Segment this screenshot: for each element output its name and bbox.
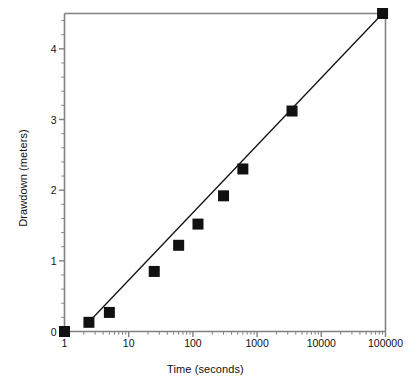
data-point-marker (104, 307, 115, 318)
x-axis-title: Time (seconds) (0, 363, 411, 375)
y-axis-title: Drawdown (meters) (17, 108, 29, 248)
x-tick-label: 1000 (245, 337, 268, 349)
data-point-marker (218, 190, 229, 201)
data-point-marker (173, 240, 184, 251)
y-tick-label: 0 (39, 326, 57, 338)
x-axis-major-ticks (65, 332, 386, 338)
x-tick-label: 10 (123, 337, 135, 349)
data-point-marker (59, 326, 70, 337)
x-tick-label: 100000 (368, 337, 403, 349)
data-point-marker (192, 219, 203, 230)
x-tick-label: 1 (62, 337, 68, 349)
drawdown-vs-time-chart: 110100100010000100000 01234 Time (second… (0, 0, 411, 387)
data-point-marker (149, 266, 160, 277)
data-point-markers (59, 8, 388, 337)
x-tick-label: 10000 (307, 337, 336, 349)
y-tick-label: 2 (39, 184, 57, 196)
data-point-marker (237, 163, 248, 174)
fitted-trend-line (86, 14, 382, 325)
trend-line-path (86, 14, 382, 325)
y-tick-label: 4 (39, 43, 57, 55)
data-point-marker (83, 317, 94, 328)
y-tick-label: 3 (39, 114, 57, 126)
y-tick-label: 1 (39, 255, 57, 267)
data-point-marker (287, 106, 298, 117)
data-point-marker (377, 8, 388, 19)
x-tick-label: 100 (184, 337, 202, 349)
plot-area (0, 0, 411, 387)
